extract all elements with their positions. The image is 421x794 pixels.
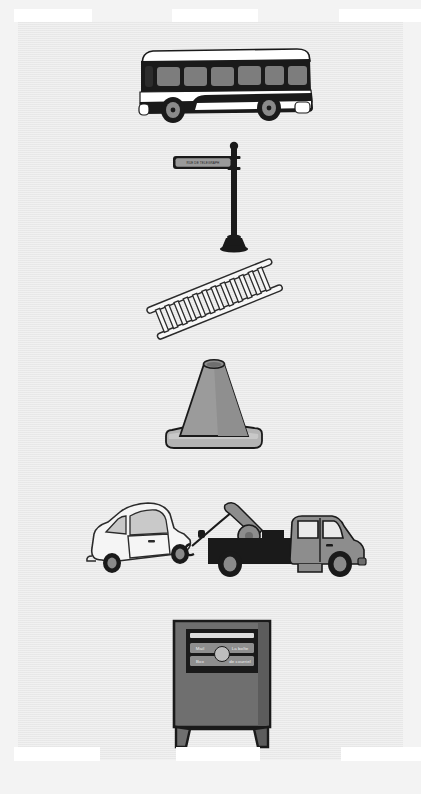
film-sprocket-top-1 [14, 9, 92, 22]
mailbox-label-box: Box [196, 659, 205, 664]
mailbox-slot [190, 633, 254, 638]
sign-post-finial [230, 142, 238, 150]
street-sign-text: RUE DE TELEGRAPH [187, 161, 220, 165]
traffic-cone [156, 346, 272, 456]
truck-window-rear [298, 521, 318, 538]
mailbox-label-de-courriel: de courriel [229, 659, 251, 664]
tow-truck-towing-car [86, 488, 366, 582]
film-sprocket-top-3 [339, 9, 421, 22]
street-name-sign-post: RUE DE TELEGRAPH [168, 138, 254, 252]
mailbox-label-la-boite: La boîte [232, 646, 249, 651]
bus-front-wheel [161, 97, 185, 123]
city-bus [135, 46, 315, 128]
film-sprocket-top-2 [172, 9, 258, 22]
mailbox-label-mail: Mail [196, 646, 204, 651]
truck-rear-wheel [218, 551, 242, 577]
bus-door-window [145, 66, 153, 87]
mailbox-leg-left [176, 727, 190, 747]
mailbox-leg-right [254, 727, 268, 747]
bus-rear-wheel [257, 95, 281, 121]
bus-front-bumper [139, 104, 149, 115]
truck-running-board [298, 564, 322, 572]
tow-hook-block [198, 530, 205, 538]
cone-shade [214, 364, 248, 436]
cone-top-inner [207, 362, 222, 367]
mailbox-side-shade [258, 623, 269, 726]
street-sign-plate: RUE DE TELEGRAPH [173, 156, 233, 169]
sign-post-base-knob [227, 234, 241, 239]
film-sprocket-bottom-3 [341, 747, 421, 761]
tow-truck [208, 503, 366, 577]
extension-ladder [140, 252, 290, 348]
truck-front-wheel [328, 551, 352, 577]
mailbox-pull-knob [215, 647, 230, 662]
truck-front-bumper [358, 558, 366, 565]
illustration-page: RUE DE TELEGRAPH [0, 0, 421, 794]
truck-door-handle [326, 544, 333, 547]
public-mailbox: Mail La boîte Box de courriel [166, 615, 278, 751]
car-rear-window [130, 510, 168, 535]
towed-car [87, 503, 191, 573]
car-door-handle [148, 540, 155, 542]
bus-rear-bumper [295, 102, 310, 113]
film-sprocket-bottom-2 [176, 747, 260, 761]
ladder-rail-bottom [157, 284, 283, 340]
film-sprocket-bottom-1 [14, 747, 100, 761]
ladder-body [146, 258, 283, 340]
car-rear-wheel [103, 553, 121, 573]
